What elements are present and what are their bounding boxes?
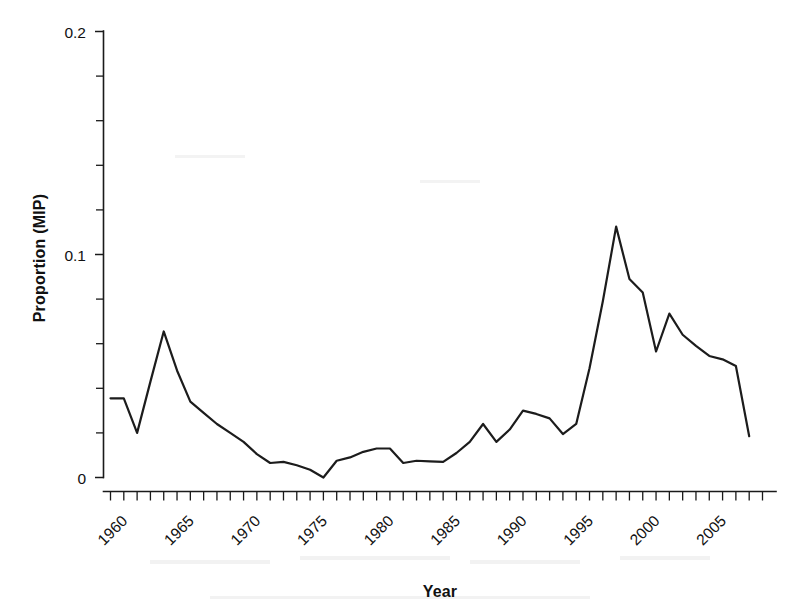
y-tick-label-0: 0 <box>77 470 86 487</box>
y-tick-label-0.1: 0.1 <box>64 247 86 264</box>
y-tick-label-0.2: 0.2 <box>64 24 86 41</box>
y-axis-label: Proportion (MIP) <box>31 194 48 323</box>
x-axis-label-text: Year <box>423 583 458 600</box>
line-chart: Proportion (MIP) Year 0.2 0.1 0 <box>0 0 799 608</box>
chart-figure: Proportion (MIP) Year 0.2 0.1 0 <box>0 0 799 608</box>
y-axis-label-text: Proportion (MIP) <box>31 194 48 323</box>
x-axis-label: Year <box>423 583 458 600</box>
